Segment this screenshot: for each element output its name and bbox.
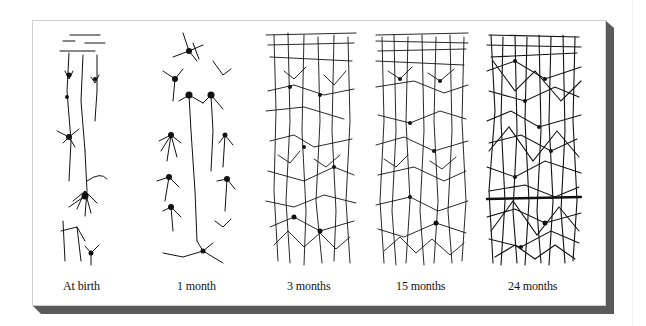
neuron-drawing-1-month bbox=[153, 31, 237, 267]
dense-neuron-network-icon bbox=[264, 31, 358, 267]
sparse-neuron-icon bbox=[55, 31, 115, 267]
label-3-months: 3 months bbox=[287, 279, 331, 294]
very-dense-neuron-network-icon bbox=[485, 31, 583, 267]
neuron-drawing-at-birth bbox=[55, 31, 115, 267]
neuron-network-icon bbox=[153, 31, 237, 267]
neuron-drawing-15-months bbox=[374, 31, 470, 267]
edge-line bbox=[632, 0, 633, 326]
label-24-months: 24 months bbox=[508, 279, 557, 294]
panel-shadow-bottom bbox=[32, 305, 614, 314]
label-15-months: 15 months bbox=[396, 279, 445, 294]
label-1-month: 1 month bbox=[177, 279, 216, 294]
dense-neuron-network-icon bbox=[374, 31, 470, 267]
neuron-drawing-3-months bbox=[264, 31, 358, 267]
neuron-drawing-24-months bbox=[485, 31, 583, 267]
panel-shadow-right bbox=[605, 20, 614, 314]
label-at-birth: At birth bbox=[63, 279, 100, 294]
figure-panel: At birth bbox=[32, 20, 606, 306]
